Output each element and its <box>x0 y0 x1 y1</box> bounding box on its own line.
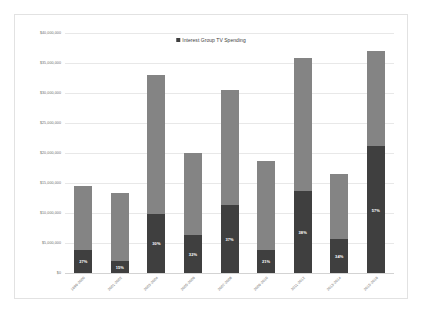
bar-segment-other-spending[interactable] <box>147 75 165 214</box>
y-axis-tick-label: $40,000,000 <box>40 31 61 35</box>
bar-column[interactable]: 30%2003-2004 <box>138 33 175 273</box>
bar-percent-label: 57% <box>372 207 380 212</box>
bar-percent-label: 32% <box>189 251 197 256</box>
bar-stack[interactable]: 32% <box>184 153 202 273</box>
x-axis-tick-label: 2005-2006 <box>180 276 196 292</box>
bar-stack[interactable]: 21% <box>257 161 275 273</box>
y-axis-tick-label: $20,000,000 <box>40 151 61 155</box>
bar-segment-interest-group[interactable]: 34% <box>330 239 348 273</box>
bar-column[interactable]: 37%2007-2008 <box>211 33 248 273</box>
x-axis-tick-label: 2003-2004 <box>144 276 160 292</box>
y-axis-tick-label: $35,000,000 <box>40 61 61 65</box>
bar-segment-other-spending[interactable] <box>367 51 385 146</box>
bar-segment-other-spending[interactable] <box>74 186 92 250</box>
bar-segment-other-spending[interactable] <box>330 174 348 239</box>
bar-column[interactable]: 57%2015-2016 <box>358 33 395 273</box>
bar-stack[interactable]: 37% <box>221 90 239 273</box>
x-axis-tick-label: 2013-2014 <box>326 276 342 292</box>
bar-stack[interactable]: 30% <box>147 75 165 273</box>
x-axis-tick-label: 2009-2010 <box>253 276 269 292</box>
plot-area: $40,000,000$35,000,000$30,000,000$25,000… <box>65 33 394 273</box>
bar-percent-label: 38% <box>299 230 307 235</box>
bar-stack[interactable]: 27% <box>74 186 92 273</box>
x-axis-tick-label: 2015-2016 <box>363 276 379 292</box>
bar-segment-interest-group[interactable]: 57% <box>367 146 385 273</box>
bar-percent-label: 30% <box>152 241 160 246</box>
bar-segment-interest-group[interactable]: 21% <box>257 250 275 273</box>
bar-segment-other-spending[interactable] <box>111 193 129 261</box>
bar-column[interactable]: 34%2013-2014 <box>321 33 358 273</box>
bar-segment-interest-group[interactable]: 37% <box>221 205 239 273</box>
bar-percent-label: 34% <box>335 254 343 259</box>
bar-column[interactable]: 27%1999-2000 <box>65 33 102 273</box>
bar-percent-label: 21% <box>262 259 270 264</box>
y-axis-tick-label: $30,000,000 <box>40 91 61 95</box>
bar-segment-interest-group[interactable]: 15% <box>111 261 129 273</box>
bar-series-container: 27%1999-200015%2001-200230%2003-200432%2… <box>65 33 394 273</box>
bar-percent-label: 15% <box>116 265 124 270</box>
bar-stack[interactable]: 15% <box>111 193 129 273</box>
bar-stack[interactable]: 34% <box>330 174 348 273</box>
y-axis-tick-label: $5,000,000 <box>42 241 61 245</box>
bar-column[interactable]: 32%2005-2006 <box>175 33 212 273</box>
bar-column[interactable]: 21%2009-2010 <box>248 33 285 273</box>
bar-segment-interest-group[interactable]: 30% <box>147 214 165 273</box>
bar-segment-interest-group[interactable]: 32% <box>184 235 202 273</box>
bar-percent-label: 37% <box>225 237 233 242</box>
bar-segment-other-spending[interactable] <box>221 90 239 205</box>
bar-stack[interactable]: 57% <box>367 51 385 273</box>
x-axis-tick-label: 2001-2002 <box>107 276 123 292</box>
bar-percent-label: 27% <box>79 259 87 264</box>
bar-segment-interest-group[interactable]: 27% <box>74 250 92 273</box>
bar-column[interactable]: 38%2011-2012 <box>284 33 321 273</box>
x-axis-tick-label: 1999-2000 <box>70 276 86 292</box>
bar-segment-other-spending[interactable] <box>294 58 312 191</box>
y-axis-tick-label: $25,000,000 <box>40 121 61 125</box>
x-axis-tick-label: 2011-2012 <box>290 276 305 291</box>
y-axis-tick-label: $0 <box>57 271 61 275</box>
y-axis-tick-label: $15,000,000 <box>40 181 61 185</box>
y-axis-tick-label: $10,000,000 <box>40 211 61 215</box>
bar-segment-other-spending[interactable] <box>184 153 202 235</box>
bar-stack[interactable]: 38% <box>294 58 312 273</box>
bar-segment-interest-group[interactable]: 38% <box>294 191 312 273</box>
chart-frame: Interest Group TV Spending $40,000,000$3… <box>14 14 408 299</box>
x-axis-line <box>65 273 394 274</box>
x-axis-tick-label: 2007-2008 <box>217 276 233 292</box>
bar-column[interactable]: 15%2001-2002 <box>102 33 139 273</box>
bar-segment-other-spending[interactable] <box>257 161 275 250</box>
